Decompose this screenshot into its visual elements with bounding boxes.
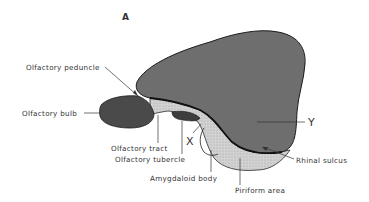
- panel-label: A: [122, 13, 129, 22]
- label-rhinal-sulcus: Rhinal sulcus: [296, 157, 347, 164]
- brain-lateral-diagram: [0, 0, 369, 202]
- label-olfactory-peduncle: Olfactory peduncle: [26, 64, 100, 71]
- label-olfactory-bulb: Olfactory bulb: [22, 110, 77, 117]
- label-olfactory-tract: Olfactory tract: [111, 145, 168, 152]
- olfactory-bulb-region: [100, 96, 154, 128]
- label-amygdaloid-body: Amygdaloid body: [150, 175, 217, 182]
- marker-y: Y: [308, 117, 315, 128]
- marker-x: X: [186, 136, 194, 147]
- label-piriform-area: Piriform area: [235, 187, 285, 194]
- label-olfactory-tubercle: Olfactory tubercle: [115, 156, 185, 163]
